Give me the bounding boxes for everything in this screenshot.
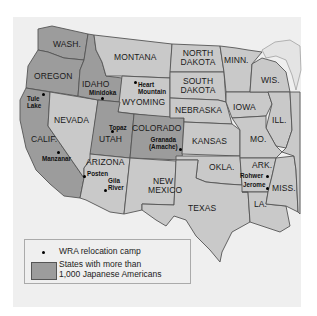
label-wyoming: WYOMING bbox=[122, 98, 165, 107]
label-colorado: COLORADO bbox=[132, 124, 181, 133]
camp-label-heart-mountain: HeartMountain bbox=[138, 81, 166, 95]
camp-label-rohwer: Rohwer bbox=[240, 172, 263, 179]
camp-legend-marker bbox=[42, 251, 45, 254]
camp-marker-tule-lake bbox=[42, 93, 45, 96]
label-new-mexico: NEWMEXICO bbox=[148, 177, 178, 195]
label-idaho: IDAHO bbox=[82, 80, 109, 89]
label-kansas: KANSAS bbox=[192, 137, 227, 146]
label-utah: UTAH bbox=[99, 135, 122, 144]
highlighted-states-swatch bbox=[31, 262, 57, 280]
label-wis: WIS. bbox=[261, 76, 280, 85]
label-ark: ARK. bbox=[252, 161, 272, 170]
legend-camp-label: WRA relocation camp bbox=[59, 246, 141, 256]
label-minn: MINN. bbox=[224, 56, 249, 65]
camp-label-minidoka: Minidoka bbox=[89, 89, 116, 96]
camp-marker-heart-mountain bbox=[134, 81, 137, 84]
label-ill: ILL. bbox=[272, 116, 287, 125]
camp-label-granada: Granada(Amache) bbox=[149, 136, 178, 150]
map-legend: WRA relocation camp States with more tha… bbox=[24, 239, 191, 284]
camp-marker-posten bbox=[83, 175, 86, 178]
label-arizona: ARIZONA bbox=[86, 158, 124, 167]
camp-marker-jerome bbox=[266, 187, 269, 190]
label-wash: WASH. bbox=[53, 40, 81, 49]
camp-label-tule-lake: TuleLake bbox=[27, 95, 41, 109]
camp-marker-granada bbox=[179, 148, 182, 151]
label-miss: MISS. bbox=[272, 184, 296, 193]
label-oregon: OREGON bbox=[34, 72, 72, 81]
camp-label-manzanar: Manzanar bbox=[42, 155, 71, 162]
camp-marker-gila-river bbox=[104, 189, 107, 192]
camp-label-gila-river: GilaRiver bbox=[108, 177, 124, 191]
label-nevada: NEVADA bbox=[54, 116, 89, 125]
label-texas: TEXAS bbox=[188, 204, 216, 213]
legend-states-label: States with more than1,000 Japanese Amer… bbox=[59, 260, 162, 279]
label-north-dakota: NORTHDAKOTA bbox=[178, 49, 218, 67]
label-south-dakota: SOUTHDAKOTA bbox=[178, 77, 218, 95]
camp-label-topaz: Topaz bbox=[109, 124, 127, 131]
label-iowa: IOWA bbox=[233, 103, 256, 112]
label-la: LA. bbox=[254, 200, 267, 209]
map-figure: WASH. OREGON CALIF. IDAHO NEVADA MONTANA… bbox=[0, 0, 317, 316]
label-mo: MO. bbox=[250, 135, 266, 144]
label-okla: OKLA. bbox=[209, 163, 235, 172]
camp-label-posten: Posten bbox=[87, 170, 108, 177]
label-nebraska: NEBRASKA bbox=[175, 106, 222, 115]
camp-label-jerome: Jerome bbox=[243, 181, 265, 188]
camp-marker-manzanar bbox=[57, 151, 60, 154]
camp-marker-minidoka bbox=[101, 97, 104, 100]
label-calif: CALIF. bbox=[31, 135, 57, 144]
label-montana: MONTANA bbox=[114, 53, 157, 62]
camp-marker-rohwer bbox=[266, 175, 269, 178]
